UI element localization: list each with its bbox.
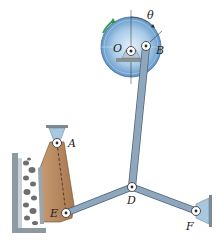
- label-d: D: [126, 194, 136, 207]
- gravel: [23, 158, 38, 226]
- link-ed: [66, 187, 132, 213]
- label-theta: θ: [147, 9, 154, 22]
- label-o: O: [113, 42, 122, 55]
- pin-f: [192, 207, 201, 216]
- label-a: A: [67, 137, 76, 150]
- link-df: [132, 187, 196, 211]
- pin-e: [62, 209, 71, 218]
- pin-a: [53, 139, 62, 148]
- mechanism-diagram: O B θ A D E F: [0, 0, 224, 246]
- pin-d: [128, 183, 137, 192]
- label-e: E: [49, 207, 58, 220]
- pin-b: [142, 42, 151, 51]
- label-f: F: [185, 220, 194, 233]
- label-b: B: [155, 44, 164, 57]
